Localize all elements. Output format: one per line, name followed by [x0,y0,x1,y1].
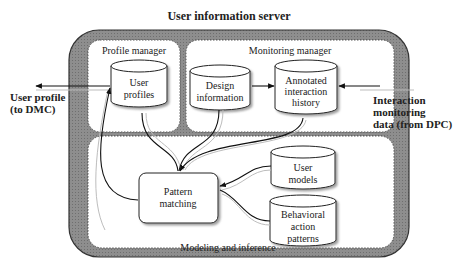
output-label-1: User profile [10,91,66,103]
design-information-label-2: information [196,92,243,103]
user-models-label-2: models [289,174,318,185]
behavioral-label-3: patterns [287,233,319,244]
behavioral-label-1: Behavioral [281,209,325,220]
behavioral-label-2: action [291,221,315,232]
pattern-matching-label-2: matching [159,198,196,209]
user-models-label-1: User [294,162,314,173]
input-label-3: data (from DPC) [373,118,453,131]
monitoring-manager-label: Monitoring manager [249,45,332,56]
input-label-2: monitoring [373,106,426,118]
modeling-inference-panel [88,136,394,248]
annotated-history-label-1: Annotated [285,75,327,86]
input-label-1: Interaction [373,94,426,106]
output-label-2: (to DMC) [10,103,56,116]
annotated-history-label-3: history [292,97,320,108]
modeling-inference-label: Modeling and inference [180,242,276,253]
profile-manager-label: Profile manager [102,45,167,56]
user-profiles-label-1: User [130,77,150,88]
pattern-matching-label-1: Pattern [164,186,192,197]
diagram-canvas: User information server Profile manager … [0,0,458,279]
diagram-title: User information server [167,9,291,23]
user-profiles-label-2: profiles [124,89,155,100]
annotated-history-label-2: interaction [285,86,328,97]
design-information-label-1: Design [206,80,234,91]
